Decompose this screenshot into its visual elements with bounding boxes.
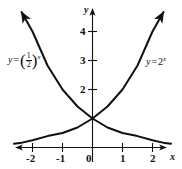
x-tick-label-2: 2 [150,153,156,164]
label-increasing-exponent: x [163,55,166,63]
y-axis [88,9,97,162]
y-axis-name: y [84,5,88,15]
x-tick-label--2: -2 [26,153,35,164]
x-axis [16,143,166,152]
label-decreasing-curve: y=(12)x [8,52,41,70]
y-tick-label-3: 3 [80,55,86,66]
label-decreasing-fraction: 12 [26,52,32,70]
graph-canvas [0,0,182,169]
x-axis-name: x [170,152,175,162]
y-tick-label-4: 4 [80,26,86,37]
label-increasing-curve: y=2x [146,57,166,67]
label-decreasing-exponent: x [37,53,40,61]
label-decreasing-equals: = [12,54,20,65]
x-tick-label-1: 1 [120,153,126,164]
label-decreasing-denominator: 2 [26,60,32,69]
exponential-functions-figure: 4 3 2 -2 -1 0 1 2 y x y=(12)x y=2x [0,0,182,169]
x-tick-label--1: -1 [56,153,65,164]
label-increasing-equals: = [150,56,158,67]
x-tick-label-0: 0 [86,153,92,164]
label-decreasing-numerator: 1 [26,52,32,60]
y-tick-label-2: 2 [80,84,86,95]
